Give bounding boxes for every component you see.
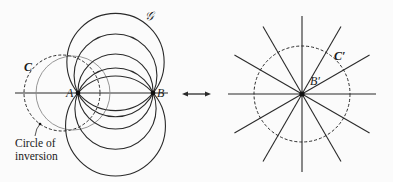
caption-leader-line [35,124,40,136]
family-circle-0 [67,13,164,110]
family-circle-1 [74,34,157,117]
point-a-label: A [65,86,74,100]
leader-dot [39,123,42,126]
arrow-head-left-icon [182,92,188,97]
circle-family-g [66,13,166,176]
arrow-head-right-icon [205,92,211,97]
caption-line-1: Circle of [15,137,56,149]
right-figure: B′ C′ [228,16,376,172]
point-b-prime [299,91,304,96]
point-b-prime-label: B′ [310,74,320,88]
family-label: 𝒢 [145,9,156,23]
point-a [76,91,81,96]
circle-c-label: C [24,60,33,74]
left-figure: A B 𝒢 C Circle of inversion [15,9,168,176]
circle-c-prime-label: C′ [334,49,345,63]
point-b [151,91,156,96]
point-b-label: B [157,86,165,100]
caption-line-2: inversion [15,150,58,162]
family-circle-3 [75,68,156,149]
inversion-diagram: A B 𝒢 C Circle of inversion B′ C′ [0,0,393,182]
family-circle-2 [78,54,153,129]
double-arrow [182,92,211,97]
